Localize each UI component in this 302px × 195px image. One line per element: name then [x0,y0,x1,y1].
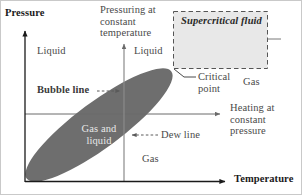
gas-region-right-label: Gas [243,76,260,88]
critical-point-label: Critical point [198,71,238,94]
supercritical-fluid-label: Supercritical fluid [181,15,262,27]
phase-diagram: Pressure Temperature Pressuring at const… [0,0,302,195]
critical-point-leader [174,69,196,77]
pressuring-at-constant-temperature-label: Pressuring at constant temperature [100,4,162,39]
liquid-region-right-label: Liquid [134,45,163,57]
bubble-line-label: Bubble line [37,84,89,96]
gas-region-bottom-label: Gas [142,153,159,165]
dew-line-label: Dew line [161,129,200,141]
gas-and-liquid-region-label: Gas and liquid [75,123,123,146]
pressure-axis-label: Pressure [5,7,45,19]
temperature-axis-label: Temperature [234,173,293,185]
heating-at-constant-pressure-label: Heating at constant pressure [230,102,286,137]
liquid-region-left-label: Liquid [37,45,66,57]
